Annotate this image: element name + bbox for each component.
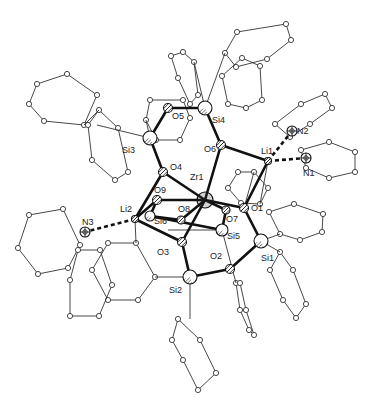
label-o4: O4: [170, 163, 182, 172]
carbon-atom: [298, 101, 303, 106]
label-o8: O8: [178, 205, 190, 214]
ring-li2-low-b: [70, 250, 112, 316]
carbon-atom: [246, 327, 251, 332]
carbon-atom: [267, 267, 272, 272]
carbon-atom: [35, 271, 40, 276]
label-o7: O7: [226, 215, 238, 224]
carbon-atom: [75, 247, 80, 252]
carbon-atom: [175, 316, 180, 321]
carbon-atom: [175, 75, 180, 80]
carbon-atom: [329, 105, 334, 110]
carbon-atom: [147, 97, 152, 102]
carbon-atom: [257, 63, 262, 68]
label-o6: O6: [204, 145, 216, 154]
carbon-atom: [67, 313, 72, 318]
atom-zr1: [197, 192, 213, 208]
carbon-atom: [265, 185, 270, 190]
carbon-atom: [125, 169, 130, 174]
carbon-atom: [96, 313, 101, 318]
label-o9: O9: [154, 186, 166, 195]
carbon-atom: [177, 137, 182, 142]
thin-bond: [97, 125, 150, 138]
label-li1: Li1: [261, 147, 273, 156]
label-si4: Si4: [212, 116, 225, 125]
carbon-atom: [280, 297, 285, 302]
carbon-atom: [291, 201, 296, 206]
label-n1: N1: [303, 169, 315, 178]
carbon-atom: [303, 301, 308, 306]
carbon-atom: [67, 277, 72, 282]
carbon-atom: [298, 147, 303, 152]
carbon-atom: [94, 92, 99, 97]
atom-n2: [287, 126, 297, 136]
atom-si4: [198, 101, 212, 115]
carbon-atom: [259, 97, 264, 102]
label-li2: Li2: [120, 205, 132, 214]
carbon-atom: [326, 139, 331, 144]
atom-o4: [159, 168, 168, 177]
carbon-atom: [219, 73, 224, 78]
label-o1: O1: [251, 204, 263, 213]
carbon-atom: [60, 206, 65, 211]
carbon-atom: [319, 229, 324, 234]
carbon-atom: [187, 115, 192, 120]
carbon-atom: [41, 118, 46, 123]
carbon-atom: [15, 245, 20, 250]
carbon-atom: [320, 211, 325, 216]
atom-li1: [265, 158, 272, 165]
label-n3: N3: [82, 218, 94, 227]
carbon-atom: [65, 265, 70, 270]
carbon-atom: [34, 81, 39, 86]
carbon-atom: [89, 267, 94, 272]
ring-si2-low: [172, 319, 216, 390]
atom-o7: [222, 206, 230, 214]
label-si3: Si3: [122, 146, 135, 155]
carbon-atom: [266, 209, 271, 214]
carbon-atom: [239, 55, 244, 60]
carbon-atom: [26, 101, 31, 106]
atom-o8: [177, 216, 185, 224]
ring-si1-low: [270, 252, 306, 318]
carbon-atom: [180, 49, 185, 54]
label-o5: O5: [172, 112, 184, 121]
atom-si2: [183, 270, 197, 284]
label-si1: Si1: [261, 254, 274, 263]
carbon-atom: [105, 240, 110, 245]
carbon-atom: [290, 267, 295, 272]
atom-si1: [254, 234, 268, 248]
atom-o2: [226, 265, 235, 274]
atom-li2: [132, 216, 139, 223]
thin-bond: [84, 110, 99, 125]
carbon-atom: [195, 92, 200, 97]
carbon-atom: [237, 280, 242, 285]
carbon-atom: [326, 175, 331, 180]
carbon-atom: [195, 387, 200, 392]
carbon-atom: [288, 37, 293, 42]
label-si6: Si6: [154, 217, 167, 226]
atom-o3: [178, 238, 187, 247]
carbon-atom: [213, 370, 218, 375]
dative-bond-Li1-N1: [268, 158, 306, 161]
carbon-atom: [97, 247, 102, 252]
carbon-atom: [352, 149, 357, 154]
carbon-atom: [272, 121, 277, 126]
ring-n3: [18, 209, 80, 274]
carbon-atom: [135, 297, 140, 302]
carbon-atom: [243, 105, 248, 110]
atom-o6: [217, 141, 226, 150]
carbon-atom: [225, 185, 230, 190]
carbon-atom: [180, 97, 185, 102]
label-o2: O2: [210, 252, 222, 261]
label-n2: N2: [297, 127, 309, 136]
atom-o9: [153, 196, 162, 205]
carbon-atom: [187, 101, 192, 106]
carbon-atom: [235, 169, 240, 174]
label-si2: Si2: [169, 286, 182, 295]
ring-left-top: [29, 74, 97, 125]
carbon-atom: [225, 101, 230, 106]
molecular-structure-diagram: Zr1O1O2O3O4O5O6O7O8O9Si1Si2Si3Si4Si5Si6L…: [0, 0, 382, 400]
carbon-atom: [112, 177, 117, 182]
carbon-atom: [297, 237, 302, 242]
carbon-atom: [197, 337, 202, 342]
carbon-atom: [77, 242, 82, 247]
